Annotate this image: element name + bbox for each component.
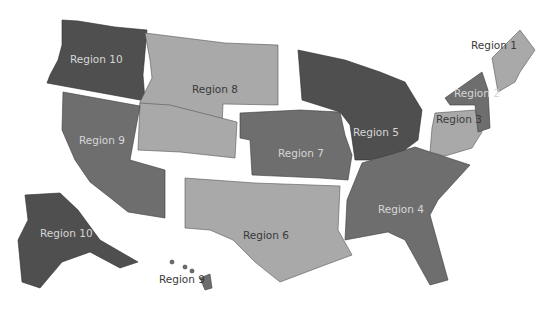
label-region-7: Region 7 (278, 147, 324, 159)
region-7-shape[interactable] (240, 110, 352, 180)
label-region-8: Region 8 (192, 83, 238, 95)
label-region-3: Region 3 (436, 113, 482, 125)
region-4-shape[interactable] (345, 147, 470, 285)
label-region-5: Region 5 (353, 126, 399, 138)
label-region-9: Region 9 (79, 134, 125, 146)
label-region-4: Region 4 (378, 203, 424, 215)
label-region-1: Region 1 (471, 39, 517, 51)
hawaii-island (183, 265, 187, 269)
region-10-alaska-shape[interactable] (18, 193, 138, 288)
label-region-10-alaska: Region 10 (40, 227, 93, 239)
label-region-6: Region 6 (243, 229, 289, 241)
label-region-10: Region 10 (70, 53, 123, 65)
hawaii-island (170, 260, 174, 264)
label-region-2: Region 2 (454, 87, 500, 99)
label-region-9-hawaii: Region 9 (159, 273, 205, 285)
